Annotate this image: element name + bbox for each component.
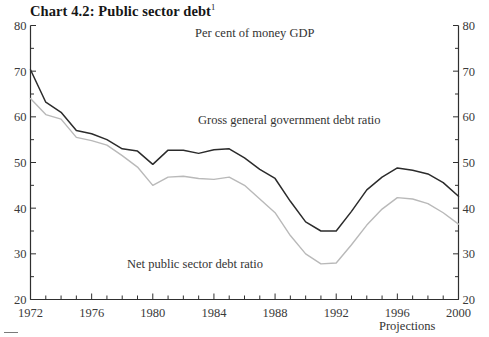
y-axis-tick-label-right: 30 [463, 247, 476, 261]
x-axis-tick-label: 1988 [263, 306, 288, 320]
y-axis-tick-label-left: 70 [14, 65, 27, 79]
y-axis-tick-label-right: 40 [463, 202, 476, 216]
series-layer [31, 70, 459, 264]
x-axis-tick-label: 1996 [385, 306, 410, 320]
y-axis-labels-right: 80706050403020 [463, 19, 476, 307]
y-axis-tick-label-left: 50 [14, 156, 27, 170]
x-axis-tick-label: 1980 [140, 306, 165, 320]
gross-series-annotation: Gross general government debt ratio [198, 113, 381, 127]
y-axis-tick-label-right: 70 [463, 65, 476, 79]
y-axis-tick-label-left: 30 [14, 247, 27, 261]
y-axis-tick-label-left: 40 [14, 202, 27, 216]
chart-canvas: 80706050403020 80706050403020 1972197619… [0, 0, 489, 337]
units-annotation: Per cent of money GDP [195, 26, 314, 40]
y-axis-tick-label-right: 50 [463, 156, 476, 170]
projections-annotation: Projections [379, 319, 435, 333]
net-series-annotation: Net public sector debt ratio [127, 257, 263, 271]
x-axis-tick-label: 1984 [201, 306, 227, 320]
public-sector-debt-line-chart: 80706050403020 80706050403020 1972197619… [0, 0, 489, 337]
chart-page: Chart 4.2: Public sector debt1 807060504… [0, 0, 489, 337]
y-axis-tick-label-right: 80 [463, 19, 476, 33]
gross-debt-ratio-line [31, 70, 459, 231]
footnote-rule [4, 332, 18, 333]
y-axis-tick-label-left: 60 [14, 110, 27, 124]
x-axis-labels: 19721976198019841988199219962000 [18, 306, 471, 320]
x-axis-tick-label: 2000 [446, 306, 471, 320]
y-axis-tick-label-left: 80 [14, 19, 27, 33]
x-axis-tick-label: 1992 [324, 306, 349, 320]
y-axis-labels-left: 80706050403020 [14, 19, 27, 307]
x-axis-tick-label: 1972 [18, 306, 43, 320]
y-axis-tick-label-right: 60 [463, 110, 476, 124]
x-axis-tick-label: 1976 [79, 306, 104, 320]
